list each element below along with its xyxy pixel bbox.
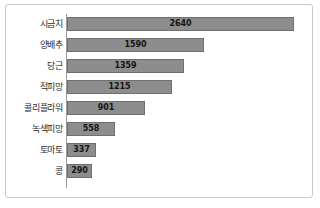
bar-row: 콜리플라워 901 bbox=[6, 98, 312, 119]
bar-track: 1215 bbox=[67, 77, 308, 98]
bar-row: 적피망 1215 bbox=[6, 77, 312, 98]
bar-track: 1590 bbox=[67, 35, 308, 56]
bar-value-label: 337 bbox=[67, 143, 96, 157]
category-label: 양배추 bbox=[6, 35, 63, 56]
bar-track: 558 bbox=[67, 119, 308, 140]
bar-row: 양배추 1590 bbox=[6, 35, 312, 56]
bar-value-label: 1590 bbox=[67, 38, 204, 52]
bar-track: 2640 bbox=[67, 14, 308, 35]
category-label: 녹색피망 bbox=[6, 119, 63, 140]
category-label: 적피망 bbox=[6, 77, 63, 98]
bar-row: 시금치 2640 bbox=[6, 14, 312, 35]
chart-frame: 시금치 2640 양배추 1590 당근 1359 적피망 12 bbox=[5, 4, 313, 198]
bar-track: 290 bbox=[67, 161, 308, 182]
category-label: 토마토 bbox=[6, 140, 63, 161]
plot-area: 시금치 2640 양배추 1590 당근 1359 적피망 12 bbox=[6, 5, 312, 197]
bar-value-label: 901 bbox=[67, 101, 145, 115]
bar-track: 901 bbox=[67, 98, 308, 119]
bar-row: 당근 1359 bbox=[6, 56, 312, 77]
bar-value-label: 290 bbox=[67, 164, 92, 178]
bar-value-label: 558 bbox=[67, 122, 115, 136]
bar-row: 콩 290 bbox=[6, 161, 312, 182]
bar-track: 337 bbox=[67, 140, 308, 161]
category-label: 당근 bbox=[6, 56, 63, 77]
category-label: 콜리플라워 bbox=[6, 98, 63, 119]
bar-track: 1359 bbox=[67, 56, 308, 77]
bar-value-label: 1359 bbox=[67, 59, 184, 73]
category-label: 시금치 bbox=[6, 14, 63, 35]
bar-row: 녹색피망 558 bbox=[6, 119, 312, 140]
bar-value-label: 1215 bbox=[67, 80, 172, 94]
bar-row: 토마토 337 bbox=[6, 140, 312, 161]
bar-value-label: 2640 bbox=[67, 17, 294, 31]
category-label: 콩 bbox=[6, 161, 63, 182]
